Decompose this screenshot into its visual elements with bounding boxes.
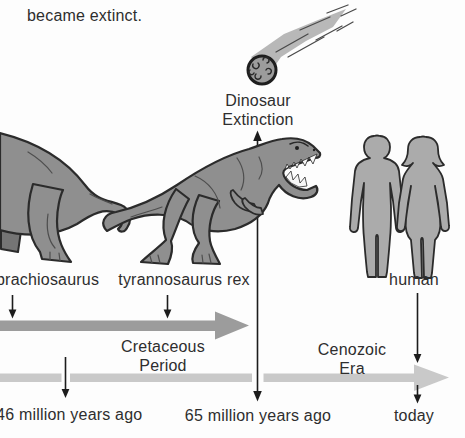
- cretaceous-start-pointer-arrow: [62, 357, 70, 398]
- male-silhouette: [350, 135, 404, 277]
- heading-text: became extinct.: [27, 6, 142, 25]
- brachiosaurus-label: brachiosaurus: [0, 270, 99, 289]
- marker-146-million-years: 146 million years ago: [0, 405, 142, 424]
- cretaceous-period-label: Cretaceous Period: [121, 337, 205, 375]
- human-pointer-arrow: [414, 293, 422, 363]
- tyrannosaurus-label: tyrannosaurus rex: [118, 270, 249, 289]
- human-silhouettes: [350, 135, 449, 278]
- cretaceous-era-arrow: [0, 312, 249, 340]
- cenozoic-era-line1: Cenozoic: [318, 340, 386, 359]
- brachiosaurus-illustration: [0, 133, 130, 262]
- cenozoic-era-label: Cenozoic Era: [318, 340, 386, 378]
- cenozoic-era-line2: Era: [318, 359, 386, 378]
- cretaceous-period-line2: Period: [121, 356, 205, 375]
- marker-today: today: [394, 406, 434, 425]
- tyrannosaurus-illustration: [103, 138, 320, 264]
- human-label: human: [389, 270, 439, 289]
- female-silhouette: [397, 136, 449, 278]
- brachiosaurus-pointer-arrow: [9, 295, 17, 319]
- marker-65-million-years: 65 million years ago: [185, 406, 331, 425]
- extinction-callout-line2: Extinction: [222, 110, 293, 129]
- extinction-callout: Dinosaur Extinction: [222, 91, 293, 129]
- extinction-callout-line1: Dinosaur: [222, 91, 293, 110]
- tyrannosaurus-pointer-arrow: [164, 295, 172, 319]
- timeline-diagram: [0, 0, 465, 438]
- meteor-icon: [248, 5, 356, 84]
- cretaceous-period-line1: Cretaceous: [121, 337, 205, 356]
